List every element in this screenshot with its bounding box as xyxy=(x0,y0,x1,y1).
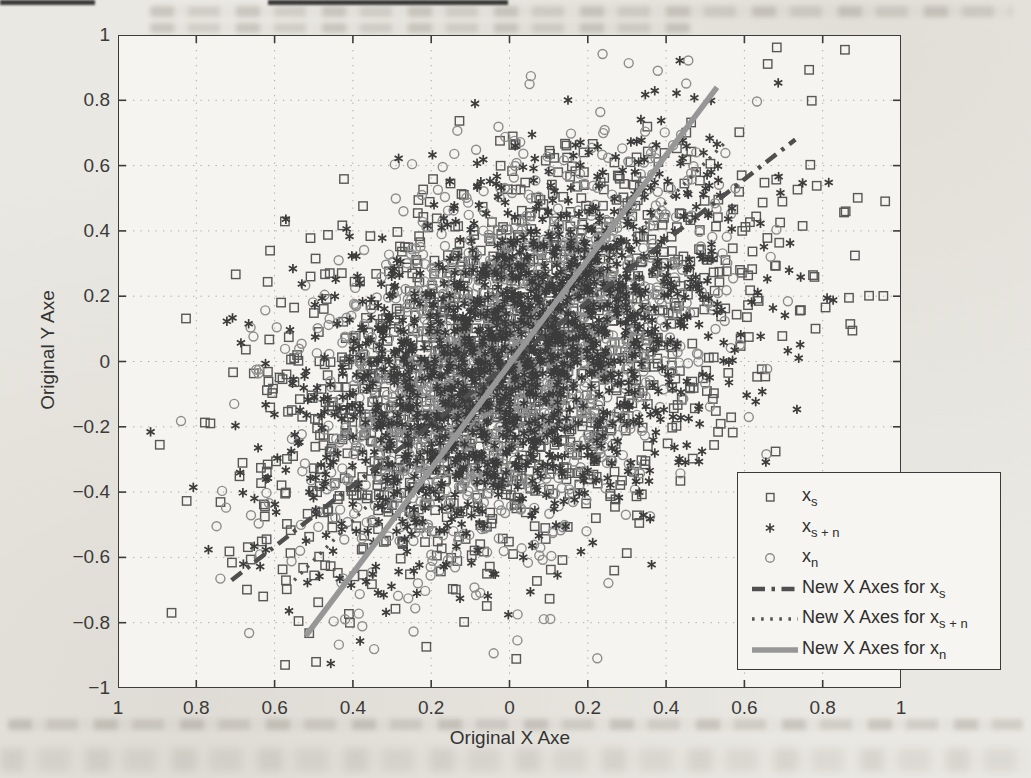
y-tick-label: −0.4 xyxy=(28,481,110,503)
y-tick-label: 0.8 xyxy=(28,89,110,111)
y-tick-label: −0.8 xyxy=(28,612,110,634)
legend-row: New X Axes for xs + n xyxy=(738,604,1000,635)
legend-label: New X Axes for xn xyxy=(802,638,946,662)
scan-edge-artifact xyxy=(0,0,95,5)
x-tick-label: 0.4 xyxy=(631,697,701,719)
x-tick-label: 0.8 xyxy=(788,697,858,719)
scanned-book-page: 10.80.60.40.200.20.40.60.81 10.80.60.40.… xyxy=(0,0,1031,778)
legend: xs xs + n xn xyxy=(737,472,1001,670)
scan-edge-artifact xyxy=(268,0,508,5)
x-tick-label: 1 xyxy=(83,697,153,719)
legend-row: xs xyxy=(738,482,1000,513)
legend-label: xs xyxy=(802,485,818,509)
y-tick-label: −0.6 xyxy=(28,546,110,568)
x-tick-label: 1 xyxy=(866,697,936,719)
bleedthrough-text-smudge xyxy=(150,23,690,33)
bleedthrough-text-smudge xyxy=(0,748,1031,772)
legend-row: New X Axes for xn xyxy=(738,635,1000,666)
legend-row: xs + n xyxy=(738,513,1000,544)
x-tick-label: 0.8 xyxy=(161,697,231,719)
y-tick-label: 0.4 xyxy=(28,220,110,242)
legend-label: New X Axes for xs xyxy=(802,577,946,601)
y-tick-label: 0.6 xyxy=(28,155,110,177)
x-tick-label: 0.4 xyxy=(318,697,388,719)
x-axis-title: Original X Axe xyxy=(110,727,910,749)
legend-dotted-line-icon xyxy=(752,614,798,624)
x-tick-label: 0 xyxy=(475,697,545,719)
legend-dashdot-line-icon xyxy=(752,584,798,594)
legend-label: New X Axes for xs + n xyxy=(802,607,968,631)
legend-circle-marker-icon xyxy=(763,551,777,565)
legend-row: xn xyxy=(738,543,1000,574)
x-tick-label: 0.2 xyxy=(396,697,466,719)
bleedthrough-text-smudge xyxy=(150,6,1012,17)
x-tick-label: 0.6 xyxy=(240,697,310,719)
legend-label: xs + n xyxy=(802,516,840,540)
y-axis-title: Original Y Axe xyxy=(37,250,59,450)
x-tick-label: 0.6 xyxy=(709,697,779,719)
x-tick-label: 0.2 xyxy=(553,697,623,719)
legend-row: New X Axes for xs xyxy=(738,574,1000,605)
legend-solid-line-icon xyxy=(752,645,798,655)
legend-square-marker-icon xyxy=(763,490,777,504)
legend-label: xn xyxy=(802,546,818,570)
y-tick-label: −1 xyxy=(28,677,110,699)
legend-star-marker-icon xyxy=(763,521,777,535)
y-tick-label: 1 xyxy=(28,24,110,46)
